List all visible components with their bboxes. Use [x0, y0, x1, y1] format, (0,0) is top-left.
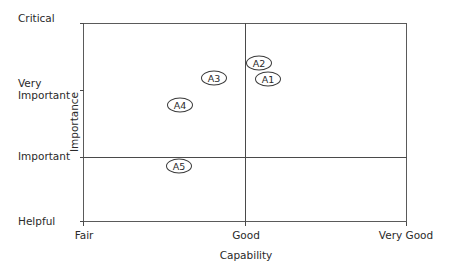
data-point-a3: A3 — [201, 71, 227, 86]
y-label-very-important-line1: Very — [18, 77, 41, 89]
x-tick-very-good — [406, 222, 407, 226]
data-point-a2: A2 — [246, 56, 272, 71]
data-point-a5: A5 — [166, 159, 192, 174]
quadrant-line-horizontal — [83, 157, 407, 158]
data-point-a1: A1 — [255, 72, 281, 87]
y-tick-critical — [80, 23, 84, 24]
y-label-critical: Critical — [18, 12, 55, 24]
y-label-very-important-line2: Important — [18, 89, 70, 101]
quadrant-line-vertical — [245, 23, 246, 226]
x-label-good: Good — [232, 229, 260, 241]
y-tick-very-important — [80, 90, 84, 91]
x-axis-title: Capability — [220, 249, 273, 261]
y-tick-important — [80, 157, 84, 158]
data-point-a4: A4 — [167, 98, 193, 113]
y-label-important: Important — [18, 150, 70, 162]
y-axis-title: Importance — [68, 92, 80, 152]
y-label-helpful: Helpful — [18, 215, 55, 227]
x-label-very-good: Very Good — [379, 229, 433, 241]
x-label-fair: Fair — [75, 229, 94, 241]
x-tick-fair — [83, 222, 84, 226]
